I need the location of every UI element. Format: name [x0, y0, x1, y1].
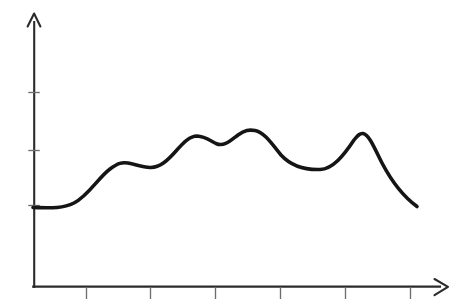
line-chart-figure [0, 0, 463, 307]
plot-background [0, 0, 463, 307]
chart-canvas [0, 0, 463, 307]
